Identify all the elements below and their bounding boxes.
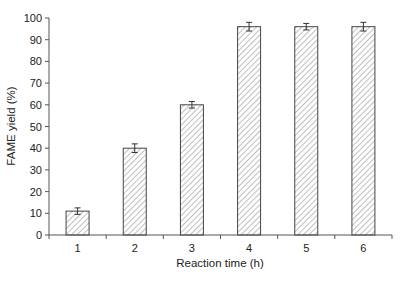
x-tick-label: 1 (75, 242, 81, 254)
y-tick-label: 10 (30, 207, 42, 219)
x-tick-label: 2 (132, 242, 138, 254)
y-tick-label: 100 (24, 12, 42, 24)
x-tick-label: 5 (303, 242, 309, 254)
x-tick-label: 3 (189, 242, 195, 254)
y-tick-label: 0 (36, 229, 42, 241)
y-tick-label: 80 (30, 55, 42, 67)
y-tick-label: 20 (30, 186, 42, 198)
y-tick-label: 40 (30, 142, 42, 154)
bar-6 (352, 22, 375, 235)
y-axis-title: FAME yield (%) (5, 86, 17, 165)
x-axis-ticks: 123456 (49, 235, 392, 254)
y-tick-label: 30 (30, 164, 42, 176)
bar-1 (66, 208, 89, 235)
bar-5 (295, 23, 318, 235)
bars (66, 22, 375, 235)
y-tick-label: 50 (30, 121, 42, 133)
x-tick-label: 4 (246, 242, 252, 254)
x-axis-title: Reaction time (h) (176, 257, 264, 269)
y-axis-ticks: 0102030405060708090100 (24, 12, 49, 241)
y-tick-label: 70 (30, 77, 42, 89)
bar-chart: 0102030405060708090100 123456 Reaction t… (0, 0, 404, 281)
x-tick-label: 6 (360, 242, 366, 254)
y-tick-label: 60 (30, 99, 42, 111)
y-tick-label: 90 (30, 34, 42, 46)
bar-4 (238, 22, 261, 235)
bar-2 (123, 144, 146, 235)
bar-3 (180, 102, 203, 235)
